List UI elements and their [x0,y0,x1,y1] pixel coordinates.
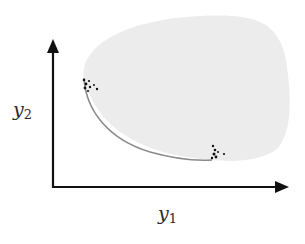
y-axis-arrowhead-icon [47,39,59,53]
x-axis-label: y1 [158,204,177,225]
x-axis-label-base: y [158,202,169,224]
y-axis-label-subscript: 2 [24,107,32,122]
y-axis-label-base: y [13,98,24,120]
diagram-canvas [0,0,305,244]
feasible-region [84,16,290,161]
x-axis-label-subscript: 1 [169,211,177,226]
x-axis-arrowhead-icon [275,181,289,193]
y-axis-label: y2 [13,100,32,121]
